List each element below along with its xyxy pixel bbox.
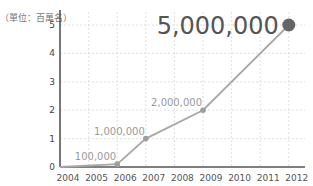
highlight-data-label: 5,000,000 (157, 12, 279, 40)
x-tick-label: 2005 (85, 173, 108, 183)
x-tick-label: 2012 (285, 173, 308, 183)
x-tick-label: 2011 (257, 173, 280, 183)
y-tick-label: 1 (49, 134, 55, 144)
y-tick-label: 0 (49, 162, 55, 172)
x-tick-label: 2007 (142, 173, 165, 183)
y-tick-label: 3 (49, 77, 55, 87)
data-label: 100,000 (75, 151, 116, 162)
y-tick-label: 4 (49, 48, 55, 58)
y-axis-ticks: 012345 (49, 20, 55, 172)
data-label: 2,000,000 (151, 97, 202, 108)
unit-label: （單位：百萬名） (0, 12, 72, 23)
data-point (143, 136, 149, 142)
x-tick-label: 2009 (200, 173, 223, 183)
x-axis-ticks: 200420052006200720082009201020112012 (57, 173, 309, 183)
x-tick-label: 2008 (171, 173, 194, 183)
data-label: 1,000,000 (94, 126, 145, 137)
y-tick-label: 2 (49, 105, 55, 115)
y-tick-label: 5 (49, 20, 55, 30)
line-chart: （單位：百萬名） 012345 200420052006200720082009… (0, 0, 313, 186)
data-point (114, 161, 120, 167)
x-tick-label: 2004 (57, 173, 80, 183)
highlight-data-point (282, 19, 295, 32)
data-labels: 100,0001,000,0002,000,0005,000,000 (75, 12, 279, 162)
data-point (200, 107, 206, 113)
x-tick-label: 2010 (228, 173, 251, 183)
x-tick-label: 2006 (114, 173, 137, 183)
